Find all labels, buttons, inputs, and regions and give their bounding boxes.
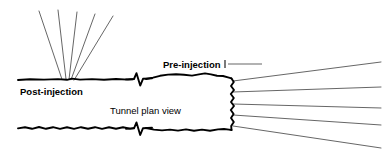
post-injection-bolt-fan [39, 10, 113, 80]
post-injection-bolt-5 [74, 16, 113, 80]
post-injection-bolt-4 [71, 14, 95, 80]
tunnel-top-wall-left [18, 79, 133, 80]
diagram-canvas: Post-injection Pre-injection Tunnel plan… [0, 0, 387, 154]
break-symbol-top [126, 73, 152, 85]
pre-injection-borehole-4 [233, 115, 381, 125]
post-injection-bolt-2 [58, 10, 66, 79]
tunnel-top-wall-right [146, 73, 232, 79]
tunnel-face [231, 78, 234, 130]
pre-injection-borehole-1 [233, 62, 381, 81]
tunnel-plan-view-label: Tunnel plan view [110, 105, 181, 116]
pre-injection-borehole-2 [233, 87, 381, 92]
pre-injection-label: Pre-injection [163, 59, 221, 70]
post-injection-bolt-3 [69, 12, 77, 79]
pre-injection-borehole-fan [233, 62, 381, 148]
tunnel-bottom-wall-right [146, 128, 232, 131]
tunnel-plan-view-figure: Post-injection Pre-injection Tunnel plan… [0, 0, 387, 154]
pre-injection-borehole-3 [233, 104, 381, 108]
post-injection-label: Post-injection [20, 86, 83, 97]
break-symbol-bottom [126, 122, 152, 135]
post-injection-bolt-1 [39, 11, 62, 79]
tunnel-bottom-wall-left [18, 127, 134, 129]
pre-injection-leader [225, 60, 262, 68]
pre-injection-borehole-5 [233, 126, 381, 148]
